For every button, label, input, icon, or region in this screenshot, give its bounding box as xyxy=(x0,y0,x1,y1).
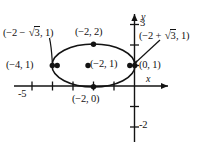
point-right-vertex xyxy=(132,63,137,68)
sqrt-icon-right: √3 xyxy=(164,30,176,42)
x-tick-label-minus-5: -5 xyxy=(18,89,26,100)
label-left-focus-prefix: (−2 − xyxy=(3,27,28,38)
x-axis-label: x xyxy=(146,74,150,84)
label-right-focus-radicand: 3 xyxy=(170,29,176,41)
label-left-focus-radicand: 3 xyxy=(34,26,40,38)
point-top-covertex xyxy=(91,42,96,47)
label-right-focus-prefix: (−2 + xyxy=(139,30,164,41)
label-right-vertex: (0, 1) xyxy=(139,60,161,71)
label-right-focus-suffix: , 1) xyxy=(176,30,189,41)
point-right-focus xyxy=(127,63,132,68)
y-tick-label-minus-2: -2 xyxy=(139,120,147,131)
label-top-covertex: (−2, 2) xyxy=(75,27,102,38)
label-center: (−2, 1) xyxy=(90,59,117,70)
y-axis xyxy=(131,14,137,142)
figure-root: y x -5 3 -2 (−2 − √3, 1) (−2, 2) (−2 + √… xyxy=(0,0,202,152)
point-left-vertex xyxy=(50,63,55,68)
label-right-focus: (−2 + √3, 1) xyxy=(139,30,189,42)
point-bottom-covertex xyxy=(91,84,96,89)
label-left-focus: (−2 − √3, 1) xyxy=(3,27,53,39)
leader-line-left-focus xyxy=(50,38,53,63)
sqrt-icon-left: √3 xyxy=(28,27,40,39)
graph-canvas xyxy=(0,0,202,152)
y-tick-label-3: 3 xyxy=(140,18,145,29)
point-left-focus xyxy=(55,63,60,68)
label-bottom-covertex: (−2, 0) xyxy=(72,94,99,105)
label-left-focus-suffix: , 1) xyxy=(40,27,53,38)
label-left-vertex: (−4, 1) xyxy=(6,60,33,71)
